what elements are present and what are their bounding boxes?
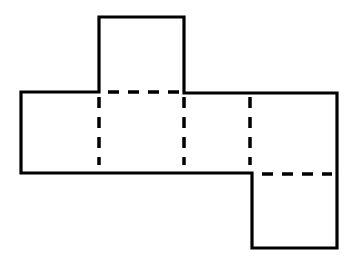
net-outline (21, 17, 337, 248)
box-net-diagram (0, 0, 355, 263)
